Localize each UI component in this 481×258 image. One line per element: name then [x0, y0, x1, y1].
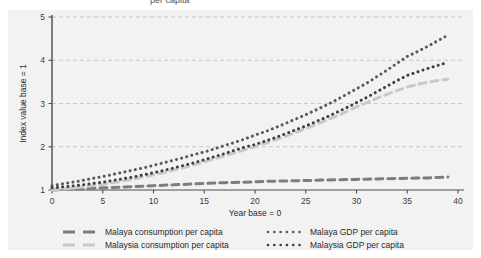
- x-tick-label: 30: [352, 196, 362, 206]
- x-tick-label: 35: [403, 196, 413, 206]
- chart-svg: 123450510152025303540 Index value base =…: [0, 0, 481, 258]
- gridlines-group: [52, 17, 464, 147]
- series-line-2: [52, 35, 448, 186]
- data-series-group: [52, 35, 448, 190]
- x-axis-title: Year base = 0: [229, 208, 282, 218]
- y-axis-title: Index value base = 1: [18, 64, 28, 143]
- x-tick-label: 5: [100, 196, 105, 206]
- legend-label-3: Malaysia GDP per capita: [310, 240, 404, 250]
- y-tick-label: 4: [40, 55, 45, 65]
- x-tick-label: 20: [250, 196, 260, 206]
- y-tick-label: 5: [40, 12, 45, 22]
- series-line-3: [52, 62, 448, 187]
- legend-item-2[interactable]: Malaya GDP per capita: [268, 227, 398, 237]
- axes-group: [52, 15, 464, 190]
- legend-group: Malaya consumption per capitaMalaysia co…: [63, 227, 404, 250]
- chart-figure: per capita 123450510152025303540 Index v…: [0, 0, 481, 258]
- legend-item-3[interactable]: Malaysia GDP per capita: [268, 240, 404, 250]
- legend-label-1: Malaysia consumption per capita: [105, 240, 229, 250]
- ticks-group: [49, 17, 459, 194]
- y-tick-label: 3: [40, 99, 45, 109]
- x-tick-label: 25: [301, 196, 311, 206]
- legend-label-0: Malaya consumption per capita: [105, 227, 223, 237]
- legend-label-2: Malaya GDP per capita: [310, 227, 398, 237]
- x-tick-label: 10: [149, 196, 159, 206]
- series-line-1: [52, 79, 448, 190]
- y-tick-label: 2: [40, 142, 45, 152]
- y-tick-label: 1: [40, 185, 45, 195]
- x-tick-label: 0: [50, 196, 55, 206]
- x-tick-label: 40: [453, 196, 463, 206]
- x-tick-label: 15: [200, 196, 210, 206]
- legend-item-1[interactable]: Malaysia consumption per capita: [63, 240, 229, 250]
- legend-item-0[interactable]: Malaya consumption per capita: [63, 227, 223, 237]
